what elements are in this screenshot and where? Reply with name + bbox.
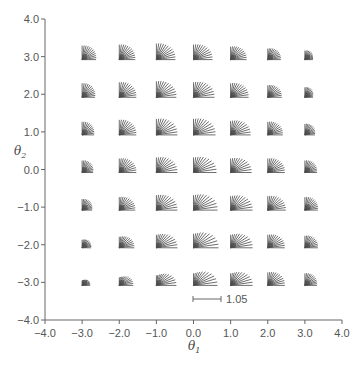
y-tick-label: 2.0 (24, 88, 39, 100)
fan (305, 124, 315, 135)
fan-origin (82, 92, 87, 97)
fan (268, 272, 285, 285)
fan (305, 236, 318, 248)
fan-origin (231, 243, 236, 248)
fan-origin (268, 55, 273, 60)
fan-origin (305, 168, 310, 173)
fan-origin (268, 280, 273, 285)
fan-origin (194, 243, 199, 248)
fan-origin (231, 92, 236, 97)
fan-origin (82, 130, 87, 135)
fan-origin (231, 280, 236, 285)
fan (231, 46, 247, 59)
fan (231, 234, 253, 248)
fan (268, 158, 285, 172)
fan-origin (231, 168, 236, 173)
fan (194, 233, 219, 248)
fan-origin (119, 168, 124, 173)
x-axis-title: θ1 (188, 339, 200, 355)
fan-origin (268, 243, 273, 248)
fan-origin (119, 92, 124, 97)
y-tick-label: 1.0 (24, 126, 39, 138)
fan-origin (305, 130, 310, 135)
fan (156, 195, 177, 210)
fan-origin (156, 280, 161, 285)
fan (194, 119, 216, 135)
fan (82, 240, 91, 248)
y-tick-label: −2.0 (17, 239, 39, 251)
fan (268, 196, 286, 210)
x-tick-label: −3.0 (71, 327, 93, 339)
fan-origin (305, 243, 310, 248)
fan-origin (231, 55, 236, 60)
y-tick-label: 0.0 (24, 164, 39, 176)
fan-origin (82, 243, 87, 248)
fan (82, 280, 90, 286)
fan (268, 122, 283, 135)
fan-origin (305, 55, 310, 60)
fan-origin (119, 243, 124, 248)
fan-origin (194, 92, 199, 97)
fan-origin (305, 205, 310, 210)
fan-origin (156, 130, 161, 135)
fan-field (82, 43, 318, 285)
fan (82, 160, 93, 172)
fan (231, 83, 249, 97)
axes: −4.0−3.0−2.0−1.00.01.02.03.04.04.03.02.0… (17, 13, 349, 339)
y-axis-subscript: 2 (20, 151, 26, 160)
fan-origin (305, 92, 310, 97)
fan-origin (305, 280, 310, 285)
x-tick-label: 2.0 (260, 327, 275, 339)
fan (119, 82, 136, 97)
fan-plot: −4.0−3.0−2.0−1.00.01.02.03.04.04.03.02.0… (0, 0, 364, 366)
fan (156, 234, 177, 248)
fan-origin (268, 130, 273, 135)
fan-origin (119, 55, 124, 60)
x-tick-label: −1.0 (146, 327, 168, 339)
fan (305, 197, 318, 210)
y-tick-label: 3.0 (24, 51, 39, 63)
fan-origin (119, 130, 124, 135)
y-tick-label: −3.0 (17, 276, 39, 288)
x-tick-label: −2.0 (108, 327, 130, 339)
fan (305, 51, 313, 60)
fan-origin (119, 280, 124, 285)
fan (119, 45, 135, 60)
fan-origin (194, 55, 199, 60)
fan (156, 119, 177, 135)
fan-origin (156, 168, 161, 173)
scale-bar: 1.05 (193, 293, 247, 305)
fan (156, 43, 175, 59)
fan-origin (268, 205, 273, 210)
fan-origin (82, 168, 87, 173)
fan-origin (82, 280, 87, 285)
x-tick-label: 3.0 (297, 327, 312, 339)
y-tick-label: 4.0 (24, 13, 39, 25)
fan (156, 157, 177, 172)
fan-origin (194, 205, 199, 210)
fan (194, 82, 215, 97)
fan (194, 157, 217, 173)
fan-origin (156, 205, 161, 210)
fan (268, 48, 281, 59)
fan (231, 195, 253, 210)
fan-origin (119, 205, 124, 210)
fan-origin (156, 92, 161, 97)
fan (194, 44, 213, 59)
fan (194, 272, 218, 286)
fan-origin (194, 130, 199, 135)
fan (156, 274, 176, 286)
y-tick-label: −1.0 (17, 201, 39, 213)
fan (119, 276, 133, 285)
x-tick-label: 4.0 (334, 327, 349, 339)
fan (82, 199, 92, 210)
fan (194, 194, 218, 210)
fan-origin (231, 205, 236, 210)
x-tick-label: 0.0 (186, 327, 201, 339)
y-axis-title: θ2 (14, 144, 26, 160)
fan-origin (156, 55, 161, 60)
fan (305, 160, 317, 172)
fan-origin (268, 168, 273, 173)
x-tick-label: −4.0 (34, 327, 56, 339)
fan (268, 235, 285, 248)
